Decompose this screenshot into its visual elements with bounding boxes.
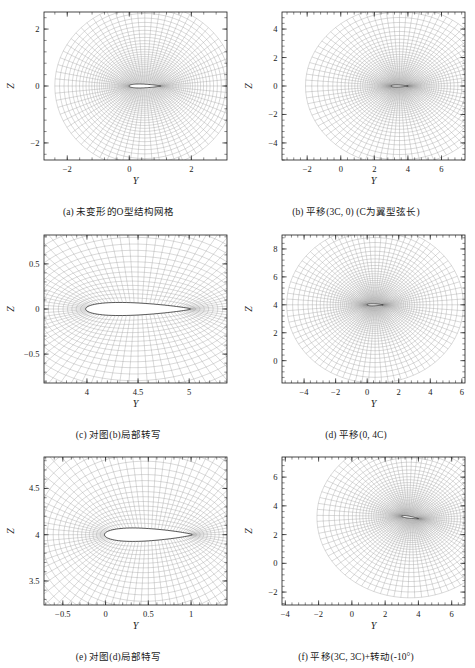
svg-text:4: 4 — [35, 530, 40, 540]
panel-d-plot: −4−2024602468YZ — [238, 223, 475, 423]
svg-text:Z: Z — [5, 83, 16, 89]
svg-text:Y: Y — [370, 175, 377, 186]
svg-text:2: 2 — [372, 164, 376, 174]
svg-text:−4: −4 — [299, 386, 309, 396]
svg-text:−2: −2 — [30, 138, 39, 148]
svg-text:−2: −2 — [268, 587, 277, 597]
svg-text:2: 2 — [273, 53, 277, 63]
panel-a-caption: (a) 未变形的O型结构网格 — [0, 204, 237, 218]
svg-text:Y: Y — [370, 620, 377, 631]
svg-text:−2: −2 — [268, 109, 277, 119]
panel-e-caption: (e) 对图(d)局部特写 — [0, 649, 237, 663]
panel-a: −202−202YZ (a) 未变形的O型结构网格 — [0, 0, 237, 222]
svg-text:−4: −4 — [268, 138, 278, 148]
svg-text:0: 0 — [365, 386, 369, 396]
svg-text:Z: Z — [5, 528, 16, 534]
svg-text:1: 1 — [189, 609, 193, 619]
svg-text:3.5: 3.5 — [29, 576, 40, 586]
panel-f-caption: (f) 平移(3C, 3C)+转动(-10°) — [238, 649, 475, 663]
mesh-figure: −202−202YZ (a) 未变形的O型结构网格 −20246−4−2024Y… — [0, 0, 475, 668]
svg-text:Z: Z — [243, 83, 254, 89]
svg-text:Y: Y — [370, 398, 377, 409]
svg-text:4: 4 — [85, 386, 90, 396]
panel-f-plot: −4−20246−20246YZ — [238, 445, 475, 645]
panel-a-plot: −202−202YZ — [0, 0, 237, 200]
svg-text:Z: Z — [5, 305, 16, 311]
svg-text:6: 6 — [273, 472, 277, 482]
panel-f: −4−20246−20246YZ (f) 平移(3C, 3C)+转动(-10°) — [238, 445, 475, 667]
svg-text:−4: −4 — [280, 609, 290, 619]
svg-text:−2: −2 — [302, 164, 311, 174]
panel-b-plot: −20246−4−2024YZ — [238, 0, 475, 200]
svg-text:−0.5: −0.5 — [55, 609, 70, 619]
svg-text:4.5: 4.5 — [133, 386, 144, 396]
svg-text:−2: −2 — [331, 386, 340, 396]
panel-b: −20246−4−2024YZ (b) 平移(3C, 0) (C为翼型弦长) — [238, 0, 475, 222]
svg-text:4: 4 — [405, 164, 410, 174]
svg-text:4: 4 — [273, 24, 278, 34]
panel-b-caption: (b) 平移(3C, 0) (C为翼型弦长) — [238, 204, 475, 218]
svg-text:2: 2 — [35, 24, 39, 34]
svg-text:0: 0 — [35, 304, 39, 314]
panel-d: −4−2024602468YZ (d) 平移(0, 4C) — [238, 223, 475, 445]
svg-text:0: 0 — [273, 559, 277, 569]
svg-text:4: 4 — [416, 609, 421, 619]
svg-text:6: 6 — [439, 164, 443, 174]
panel-d-caption: (d) 平移(0, 4C) — [238, 427, 475, 441]
svg-text:4.5: 4.5 — [29, 484, 40, 494]
svg-text:2: 2 — [383, 609, 387, 619]
svg-text:0: 0 — [103, 609, 107, 619]
svg-text:2: 2 — [189, 164, 193, 174]
svg-text:0: 0 — [349, 609, 353, 619]
svg-text:−2: −2 — [63, 164, 72, 174]
svg-text:Y: Y — [133, 398, 140, 409]
svg-text:−0.5: −0.5 — [24, 349, 39, 359]
panel-e: −0.500.513.544.5YZ (e) 对图(d)局部特写 — [0, 445, 237, 667]
svg-text:6: 6 — [273, 272, 277, 282]
svg-text:Z: Z — [243, 305, 254, 311]
svg-text:Y: Y — [133, 620, 140, 631]
svg-text:2: 2 — [396, 386, 400, 396]
svg-text:Z: Z — [243, 528, 254, 534]
svg-text:0.5: 0.5 — [29, 259, 40, 269]
svg-text:4: 4 — [273, 299, 278, 309]
panel-c: 44.55−0.500.5YZ (c) 对图(b)局部转写 — [0, 223, 237, 445]
svg-text:6: 6 — [449, 609, 453, 619]
svg-text:5: 5 — [187, 386, 191, 396]
svg-text:6: 6 — [459, 386, 463, 396]
panel-e-plot: −0.500.513.544.5YZ — [0, 445, 237, 645]
svg-text:0: 0 — [35, 81, 39, 91]
svg-text:4: 4 — [273, 501, 278, 511]
svg-text:8: 8 — [273, 244, 277, 254]
svg-text:0: 0 — [127, 164, 131, 174]
svg-text:0.5: 0.5 — [143, 609, 154, 619]
panel-c-plot: 44.55−0.500.5YZ — [0, 223, 237, 423]
svg-text:0: 0 — [338, 164, 342, 174]
svg-text:4: 4 — [428, 386, 433, 396]
svg-text:Y: Y — [133, 175, 140, 186]
panel-c-caption: (c) 对图(b)局部转写 — [0, 427, 237, 441]
svg-text:0: 0 — [273, 355, 277, 365]
svg-text:0: 0 — [273, 81, 277, 91]
svg-text:2: 2 — [273, 530, 277, 540]
svg-text:2: 2 — [273, 327, 277, 337]
svg-text:−2: −2 — [314, 609, 323, 619]
